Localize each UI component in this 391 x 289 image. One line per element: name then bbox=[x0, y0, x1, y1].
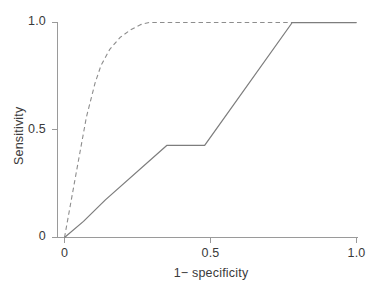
x-axis-ticks bbox=[65, 238, 357, 244]
roc-chart-figure: 1.0 0.5 0 0 0.5 1.0 Sensitivity 1− speci… bbox=[0, 0, 391, 289]
y-axis-title: Sensitivity bbox=[12, 107, 26, 165]
x-tick-label-0: 0 bbox=[44, 246, 85, 260]
x-axis-title: 1− specificity bbox=[146, 266, 276, 280]
y-axis-ticks bbox=[52, 23, 58, 238]
x-tick-label-0-5: 0.5 bbox=[190, 246, 231, 260]
y-tick-label-0: 0 bbox=[10, 229, 46, 243]
roc-curve-solid bbox=[65, 23, 357, 238]
y-tick-label-1-0: 1.0 bbox=[10, 14, 46, 28]
x-tick-label-1-0: 1.0 bbox=[336, 246, 377, 260]
roc-curve-dashed bbox=[65, 23, 357, 238]
